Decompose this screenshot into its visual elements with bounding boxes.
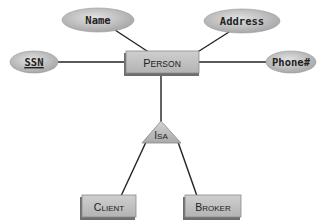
entity-client[interactable]: CLIENT [80, 195, 136, 220]
line-address-person [196, 32, 229, 53]
entity-person-label: PERSON [143, 57, 181, 69]
attribute-name[interactable]: Name [62, 8, 134, 32]
attribute-phone[interactable]: Phone# [266, 51, 316, 73]
attribute-name-label: Name [85, 14, 110, 26]
attribute-address-label: Address [220, 15, 264, 27]
attribute-address[interactable]: Address [204, 9, 280, 33]
line-isa-broker [178, 142, 197, 196]
isa-label: ISA [154, 130, 168, 141]
isa-relationship[interactable]: ISA [142, 121, 181, 143]
attribute-ssn-label: SSN [25, 56, 44, 68]
line-name-person [115, 30, 150, 53]
entity-person[interactable]: PERSON [124, 51, 199, 76]
attribute-phone-label: Phone# [272, 56, 311, 68]
attribute-ssn[interactable]: SSN [10, 51, 58, 73]
er-diagram: Name Address SSN Phone# PERSON ISA CLIEN… [0, 0, 317, 224]
line-isa-client [121, 142, 146, 196]
entity-broker[interactable]: BROKER [183, 195, 241, 220]
